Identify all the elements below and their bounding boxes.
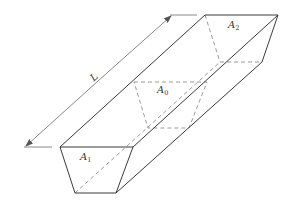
back-area-label: A2 <box>227 19 239 32</box>
length-label: L <box>87 70 100 84</box>
dimension-line <box>26 81 98 146</box>
visible-edges <box>60 15 278 193</box>
top-left-edge <box>60 15 205 147</box>
hidden-edges <box>75 15 262 193</box>
mid-area-label: A0 <box>156 84 168 97</box>
diagram-canvas: L A1 A0 A2 <box>0 0 292 207</box>
hidden-back-left-edge <box>205 15 220 62</box>
trough-diagram: L A1 A0 A2 <box>0 0 292 207</box>
front-face <box>60 147 133 193</box>
dimension-line <box>98 16 171 81</box>
front-area-label: A1 <box>79 151 91 164</box>
length-dimension: L <box>24 15 197 147</box>
top-right-edge <box>133 15 278 147</box>
area-labels: A1 A0 A2 <box>79 19 239 164</box>
